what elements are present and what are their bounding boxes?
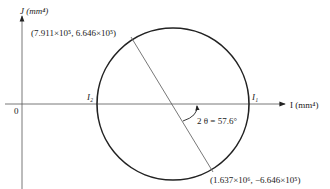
i-axis-label: I (mm⁴) [290,100,318,110]
point-bottom-label: (1.637×10⁶, −6.646×10⁵) [210,175,301,185]
origin-label: 0 [14,106,19,116]
i2-label: I₂ [86,92,93,102]
mohr-circle-diagram: J (mm⁴) I (mm⁴) 0 (7.911×10⁵, 6.646×10⁵)… [0,0,330,189]
diameter-line [131,37,213,172]
i1-label: I₁ [251,92,258,102]
point-top-label: (7.911×10⁵, 6.646×10⁵) [31,28,116,38]
j-axis-label: J (mm⁴) [20,6,48,16]
angle-label: 2 θ = 57.6° [197,116,237,126]
angle-arc [183,106,197,121]
